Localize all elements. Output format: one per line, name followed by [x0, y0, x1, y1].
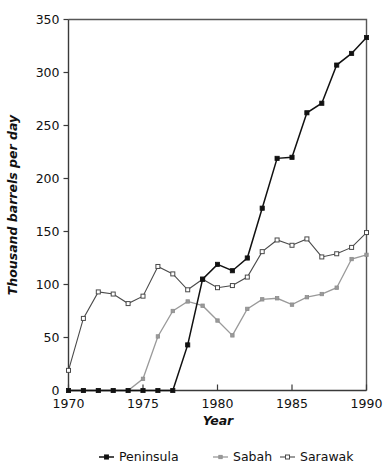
data-point-marker	[286, 455, 290, 459]
data-point-marker	[96, 290, 100, 294]
x-tick-label: 1970	[53, 396, 85, 411]
data-point-marker	[171, 309, 174, 312]
data-point-marker	[141, 377, 144, 380]
data-point-marker	[216, 286, 220, 290]
data-point-marker	[335, 286, 338, 289]
data-point-marker	[96, 388, 100, 392]
data-point-marker	[171, 272, 175, 276]
data-point-marker	[364, 35, 368, 39]
data-point-marker	[201, 277, 205, 281]
x-tick-label: 1985	[276, 396, 308, 411]
y-tick-label: 50	[44, 330, 60, 345]
data-point-marker	[156, 264, 160, 268]
data-point-marker	[230, 284, 234, 288]
data-point-marker	[171, 388, 175, 392]
x-axis-title: Year	[203, 413, 234, 428]
y-tick-label: 350	[36, 12, 60, 27]
data-point-marker	[186, 288, 190, 292]
data-point-marker	[365, 253, 368, 256]
x-tick-label: 1975	[127, 396, 159, 411]
data-point-marker	[350, 257, 353, 260]
data-point-marker	[275, 156, 279, 160]
x-axis-ticks: 19701975198019851990	[53, 385, 383, 411]
data-point-marker	[320, 292, 323, 295]
data-point-marker	[335, 252, 339, 256]
data-point-marker	[126, 302, 130, 306]
data-point-marker	[219, 455, 222, 458]
chart-series	[66, 35, 368, 392]
data-point-marker	[111, 292, 115, 296]
data-point-marker	[104, 455, 108, 459]
series-line	[69, 38, 367, 391]
series-sarawak	[67, 231, 369, 373]
y-axis-title: Thousand barrels per day	[5, 114, 20, 295]
data-point-marker	[156, 388, 160, 392]
data-point-marker	[81, 388, 85, 392]
data-point-marker	[350, 245, 354, 249]
data-point-marker	[290, 243, 294, 247]
data-point-marker	[186, 300, 189, 303]
data-point-marker	[66, 388, 70, 392]
data-point-marker	[305, 237, 309, 241]
data-point-marker	[305, 111, 309, 115]
legend-item-label: Sarawak	[300, 449, 354, 464]
data-point-marker	[141, 388, 145, 392]
series-sabah	[67, 253, 368, 392]
legend-item-label: Sabah	[233, 449, 272, 464]
data-point-marker	[156, 335, 159, 338]
data-point-marker	[245, 256, 249, 260]
data-point-marker	[320, 101, 324, 105]
data-point-marker	[260, 250, 264, 254]
legend-item-label: Peninsula	[119, 449, 179, 464]
y-tick-label: 150	[36, 224, 60, 239]
y-tick-label: 300	[36, 65, 60, 80]
series-line	[69, 233, 367, 371]
data-point-marker	[365, 231, 369, 235]
y-axis-ticks: 050100150200250300350	[36, 12, 69, 398]
data-point-marker	[261, 298, 264, 301]
data-point-marker	[260, 206, 264, 210]
data-point-marker	[335, 63, 339, 67]
data-point-marker	[246, 307, 249, 310]
data-point-marker	[305, 296, 308, 299]
data-point-marker	[230, 269, 234, 273]
data-point-marker	[245, 275, 249, 279]
data-point-marker	[81, 316, 85, 320]
data-point-marker	[275, 297, 278, 300]
data-point-marker	[126, 388, 130, 392]
data-point-marker	[141, 294, 145, 298]
data-point-marker	[111, 388, 115, 392]
y-tick-label: 200	[36, 171, 60, 186]
data-point-marker	[216, 319, 219, 322]
chart-legend: PeninsulaSabahSarawak	[99, 449, 354, 464]
series-peninsula	[66, 35, 368, 392]
data-point-marker	[215, 262, 219, 266]
data-point-marker	[350, 51, 354, 55]
chart-figure: 050100150200250300350 197019751980198519…	[0, 0, 389, 471]
data-point-marker	[67, 368, 71, 372]
y-tick-label: 250	[36, 118, 60, 133]
y-tick-label: 100	[36, 277, 60, 292]
series-line	[69, 255, 367, 391]
data-point-marker	[231, 334, 234, 337]
data-point-marker	[290, 303, 293, 306]
chart-axes	[69, 20, 367, 391]
data-point-marker	[320, 255, 324, 259]
line-chart: 050100150200250300350 197019751980198519…	[0, 0, 389, 471]
data-point-marker	[186, 343, 190, 347]
data-point-marker	[290, 155, 294, 159]
x-tick-label: 1980	[202, 396, 234, 411]
x-tick-label: 1990	[351, 396, 383, 411]
data-point-marker	[275, 238, 279, 242]
data-point-marker	[201, 304, 204, 307]
